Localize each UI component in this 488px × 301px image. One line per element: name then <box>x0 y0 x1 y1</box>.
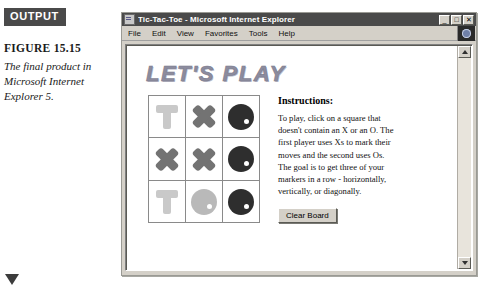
board-cell-r2c3[interactable] <box>223 138 260 180</box>
scroll-up-button[interactable] <box>458 46 471 58</box>
minimize-icon: _ <box>440 16 449 24</box>
scroll-down-button[interactable] <box>458 257 471 269</box>
menu-bar: File Edit View Favorites Tools Help <box>122 26 476 41</box>
output-badge: OUTPUT <box>4 8 66 26</box>
board-cell-r3c3[interactable] <box>223 180 260 222</box>
window-controls: _ □ ✕ <box>439 15 474 25</box>
board-cell-r1c1[interactable] <box>149 96 186 138</box>
window-title: Tic-Tac-Toe - Microsoft Internet Explore… <box>138 15 439 24</box>
board-cell-r2c1[interactable] <box>149 138 186 180</box>
table-row <box>149 138 260 180</box>
chevron-up-icon <box>462 50 468 54</box>
browser-viewport: LET'S PLAY <box>125 44 473 271</box>
menu-item-view[interactable]: View <box>177 29 194 38</box>
close-button[interactable]: ✕ <box>463 15 474 25</box>
margin-triangle-marker <box>5 274 19 285</box>
page-headline: LET'S PLAY <box>146 61 458 87</box>
document-icon <box>124 14 135 25</box>
table-row <box>149 180 260 222</box>
x-mark-icon <box>192 105 216 129</box>
margin-annotation-column: OUTPUT FIGURE 15.15 The final product in… <box>4 6 116 104</box>
close-icon: ✕ <box>464 16 473 24</box>
tic-tac-toe-board[interactable] <box>148 95 260 223</box>
internet-explorer-logo-icon <box>457 26 475 41</box>
empty-cell-icon <box>156 190 178 214</box>
instructions-title: Instructions: <box>278 95 396 106</box>
board-cell-r1c3[interactable] <box>223 96 260 138</box>
maximize-icon: □ <box>452 16 461 24</box>
menu-item-tools[interactable]: Tools <box>249 29 268 38</box>
figure-page: OUTPUT FIGURE 15.15 The final product in… <box>0 0 488 301</box>
figure-caption: The final product in Microsoft Internet … <box>4 59 116 105</box>
chevron-down-icon <box>462 261 468 265</box>
empty-cell-icon <box>156 105 178 129</box>
o-mark-icon <box>228 104 254 130</box>
menu-item-favorites[interactable]: Favorites <box>205 29 238 38</box>
board-cell-r3c1[interactable] <box>149 180 186 222</box>
content-row: Instructions: To play, click on a square… <box>148 95 458 223</box>
menu-item-file[interactable]: File <box>128 29 141 38</box>
clear-board-button[interactable]: Clear Board <box>278 208 337 223</box>
x-mark-icon <box>192 147 216 171</box>
menu-item-edit[interactable]: Edit <box>152 29 166 38</box>
minimize-button[interactable]: _ <box>439 15 450 25</box>
board-cell-r3c2[interactable] <box>186 180 223 222</box>
menu-item-help[interactable]: Help <box>278 29 294 38</box>
maximize-button[interactable]: □ <box>451 15 462 25</box>
board-cell-r1c2[interactable] <box>186 96 223 138</box>
board-cell-r2c2[interactable] <box>186 138 223 180</box>
o-mark-light-icon <box>191 189 217 215</box>
web-page-content: LET'S PLAY <box>128 47 458 268</box>
x-mark-icon <box>155 147 179 171</box>
browser-window: Tic-Tac-Toe - Microsoft Internet Explore… <box>121 12 477 276</box>
o-mark-icon <box>228 146 254 172</box>
instructions-panel: Instructions: To play, click on a square… <box>278 95 396 223</box>
figure-label: FIGURE 15.15 <box>4 42 116 54</box>
title-bar: Tic-Tac-Toe - Microsoft Internet Explore… <box>122 13 476 26</box>
o-mark-icon <box>228 189 254 215</box>
vertical-scrollbar[interactable] <box>457 46 471 269</box>
instructions-body: To play, click on a square that doesn't … <box>278 112 396 197</box>
table-row <box>149 96 260 138</box>
